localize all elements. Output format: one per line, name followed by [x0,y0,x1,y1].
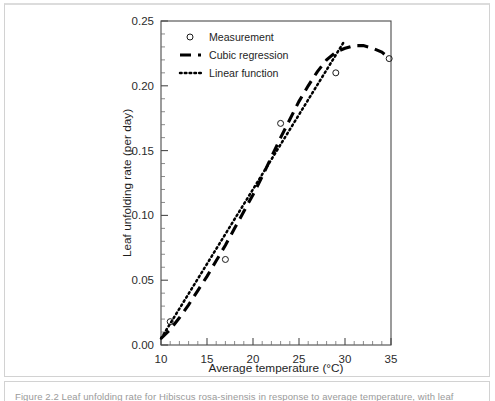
y-tick-label: 0.00 [132,339,154,351]
y-tick-label: 0.15 [132,145,154,157]
legend-label-linear-function: Linear function [209,67,279,79]
legend-label-cubic-regression: Cubic regression [209,49,289,61]
chart-container: 0.000.050.100.150.200.25 101520253035 Av… [0,0,495,378]
y-tick-label: 0.05 [132,274,154,286]
x-axis-title: Average temperature (°C) [209,361,344,375]
x-tick-label: 35 [385,353,398,365]
caption-area: Figure 2.2 Leaf unfolding rate for Hibis… [4,381,490,401]
y-tick-label: 0.25 [132,15,154,27]
y-axis-tick-labels: 0.000.050.100.150.200.25 [132,15,154,351]
x-tick-label: 10 [155,353,168,365]
figure-page: 0.000.050.100.150.200.25 101520253035 Av… [0,0,495,401]
y-tick-label: 0.20 [132,80,154,92]
y-tick-label: 0.10 [132,209,154,221]
legend-label-measurement: Measurement [209,31,274,43]
y-axis-title: Leaf unfolding rate (per day) [120,109,134,257]
leaf-unfolding-rate-chart: 0.000.050.100.150.200.25 101520253035 Av… [0,0,495,378]
figure-caption: Figure 2.2 Leaf unfolding rate for Hibis… [15,391,485,401]
